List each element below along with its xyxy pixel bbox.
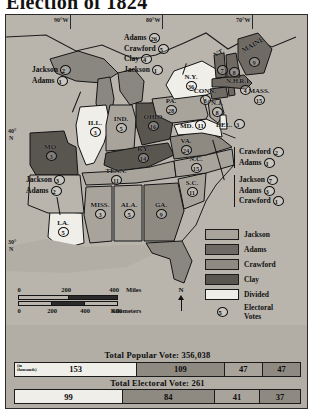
state-votes-louisiana: 5 xyxy=(58,227,69,237)
state-votes-maine: 9 xyxy=(249,57,260,67)
state-label-louisiana: LA. 5 xyxy=(52,219,74,237)
state-votes-new-hampshire-wrap: 8 xyxy=(226,67,242,77)
map-legend: Jackson Adams Crawford Clay Divided xyxy=(205,228,301,324)
electoral-value: 41 xyxy=(233,392,242,402)
callout-candidate: Adams xyxy=(124,33,147,44)
callout-candidate: Jackson xyxy=(124,65,150,76)
callout-row: Clay 4 xyxy=(124,54,169,65)
legend-swatch-adams xyxy=(205,244,239,255)
gridline-80w xyxy=(162,15,163,29)
map-canvas: 90°W 80°W 70°W 40° N 30° N ILL. 3 IND. 5… xyxy=(6,15,307,408)
gridline-90w xyxy=(70,15,71,29)
legend-label-clay: Clay xyxy=(244,275,259,284)
lat-label-40n-n: N xyxy=(9,135,13,141)
scale-mile-tick: 400 xyxy=(109,286,119,293)
legend-item-crawford: Crawford xyxy=(205,258,301,270)
legend-swatch-electoral: 5 xyxy=(205,307,239,318)
gridline-70w xyxy=(252,15,253,29)
lon-label-90w: 90°W xyxy=(54,17,68,23)
callout-candidate: Clay xyxy=(124,54,139,65)
state-votes-north-carolina: 15 xyxy=(191,163,202,173)
callout-votes: 1 xyxy=(57,76,68,86)
lat-label-40n-deg: 40° xyxy=(8,128,16,134)
state-votes-illinois: 3 xyxy=(90,127,101,137)
legend-label-divided: Divided xyxy=(244,290,269,299)
scale-seg xyxy=(19,302,52,305)
scale-bar-miles xyxy=(18,295,118,300)
callout-candidate: Adams xyxy=(239,186,262,197)
callout-candidate: Jackson xyxy=(32,65,58,76)
legend-swatch-jackson xyxy=(205,229,239,240)
scale-mile-tick: 200 xyxy=(61,286,71,293)
scale-seg xyxy=(85,302,117,305)
state-votes-connecticut: 8 xyxy=(200,95,211,105)
state-name-massachusetts: MASS. xyxy=(248,87,269,95)
callout-votes: 1 xyxy=(264,158,275,168)
electoral-value: 99 xyxy=(64,392,73,402)
state-label-alabama: ALA. 5 xyxy=(116,201,142,219)
state-name-delaware: DEL. xyxy=(216,121,232,129)
callout-candidate: Adams xyxy=(32,76,55,87)
callout-votes: 7 xyxy=(267,175,278,185)
callout-votes: 1 xyxy=(273,196,284,206)
lon-label-70w: 70°W xyxy=(236,17,250,23)
legend-item-electoral-votes: 5 Electoral Votes xyxy=(205,303,301,321)
callout-candidate: Adams xyxy=(26,186,49,197)
state-name-kentucky: KY. xyxy=(137,145,149,153)
callout-row: Adams 3 xyxy=(239,186,284,197)
state-name-north-carolina: N.C. xyxy=(189,155,203,163)
scale-mile-tick: 0 xyxy=(17,286,20,293)
callout-votes: 2 xyxy=(273,147,284,157)
state-votes-georgia: 9 xyxy=(156,209,167,219)
state-name-tennessee: TENN. xyxy=(105,167,126,175)
state-name-pennsylvania: PA. xyxy=(166,97,177,105)
scale-bar-km xyxy=(18,301,118,306)
scale-bar: 0 200 400 Miles 0 200 400 600 Kilometers xyxy=(18,286,168,316)
state-votes-new-jersey: 8 xyxy=(212,107,223,117)
state-label-tennessee: TENN. 11 xyxy=(100,167,132,185)
state-name-indiana: IND. xyxy=(114,115,129,123)
state-name-missouri: MO. xyxy=(44,143,58,151)
scale-seg xyxy=(69,296,118,299)
state-votes-mississippi: 3 xyxy=(95,209,106,219)
state-votes-kentucky: 14 xyxy=(138,153,149,163)
callout-row: Jackson 3 xyxy=(26,175,65,186)
callout-votes: 4 xyxy=(141,54,152,64)
state-votes-alabama: 5 xyxy=(124,209,135,219)
callout-delaware: Crawford 2 Adams 1 xyxy=(234,147,284,168)
state-label-south-carolina: S.C. 11 xyxy=(180,179,204,197)
map-frame: 90°W 80°W 70°W 40° N 30° N ILL. 3 IND. 5… xyxy=(5,14,308,409)
legend-electoral-line1: Electoral xyxy=(244,303,273,312)
state-votes-missouri: 3 xyxy=(46,151,57,161)
figure-title: Election of 1824 xyxy=(0,0,313,13)
callout-row: Crawford 2 xyxy=(239,147,284,158)
callout-votes: 1 xyxy=(152,65,163,75)
legend-label-electoral: Electoral Votes xyxy=(244,303,273,321)
legend-swatch-divided xyxy=(205,289,239,300)
electoral-map-figure: Election of 1824 xyxy=(0,0,313,412)
popular-cell-adams: 109 xyxy=(137,363,224,376)
callout-louisiana: Jackson 3 Adams 2 xyxy=(26,175,65,196)
callout-row: Jackson 1 xyxy=(124,65,169,76)
callout-votes: 26 xyxy=(149,33,160,43)
state-votes-south-carolina: 11 xyxy=(187,187,198,197)
state-votes-maine-wrap: 9 xyxy=(246,57,262,67)
vote-summary-tables: Total Popular Vote: 356,038 (in thousand… xyxy=(14,349,301,404)
electoral-cell-adams: 84 xyxy=(123,390,215,403)
callout-row: Adams 2 xyxy=(26,186,65,197)
state-label-pennsylvania: PA. 28 xyxy=(158,97,184,115)
popular-vote-caption: Total Popular Vote: 356,038 xyxy=(14,349,301,362)
callout-row: Adams 1 xyxy=(239,158,284,169)
callout-row: Adams 26 xyxy=(124,33,169,44)
callout-votes: 2 xyxy=(51,186,62,196)
callout-new-york: Adams 26 Crawford 5 Clay 4 Jackson 1 xyxy=(124,33,169,75)
scale-miles-unit: Miles xyxy=(126,286,141,293)
state-label-virginia: VA. 24 xyxy=(174,137,198,155)
callout-row: Jackson 2 xyxy=(32,65,71,76)
state-label-indiana: IND. 5 xyxy=(108,115,134,133)
state-name-maryland: MD. xyxy=(180,122,193,130)
legend-electoral-line2: Votes xyxy=(244,312,261,321)
callout-candidate: Crawford xyxy=(239,147,271,158)
state-votes-ohio: 16 xyxy=(148,121,159,131)
state-name-new-hampshire: N.H. xyxy=(226,77,240,85)
